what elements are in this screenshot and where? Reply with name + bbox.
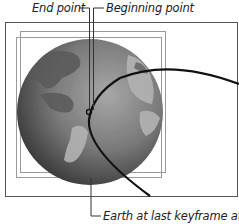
diagram-canvas [0, 0, 239, 224]
callout-end-point: End point [32, 1, 85, 15]
callout-earth-last-keyframe: Earth at last keyframe attached [103, 209, 239, 223]
callout-beginning-point: Beginning point [106, 1, 194, 15]
